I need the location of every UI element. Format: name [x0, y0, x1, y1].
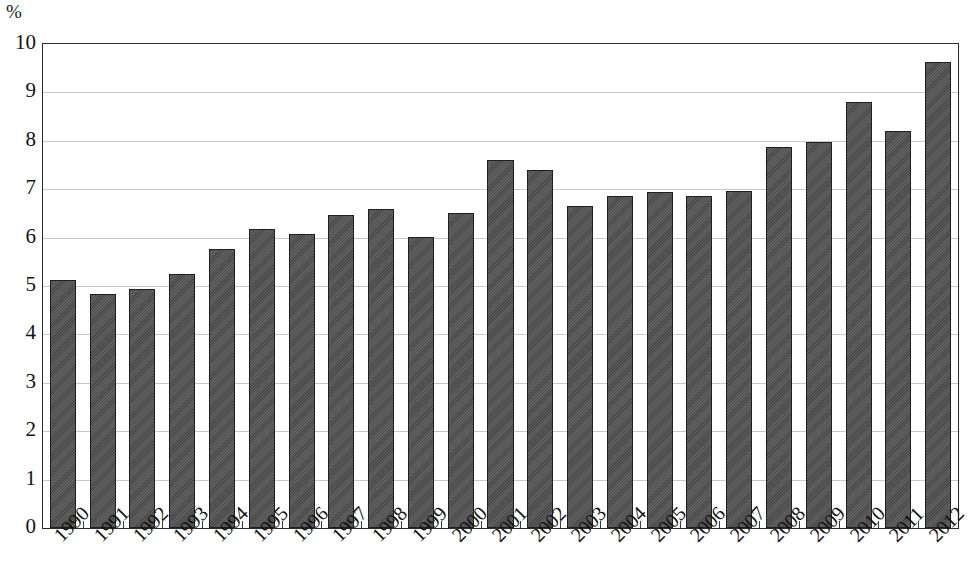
plot-area	[42, 43, 959, 529]
y-axis: 109876543210	[0, 43, 36, 529]
y-axis-tick-label: 3	[2, 371, 36, 392]
bar	[607, 196, 633, 528]
y-axis-tick-label: 7	[2, 177, 36, 198]
bar	[90, 294, 116, 528]
bar	[408, 237, 434, 528]
bar	[567, 206, 593, 528]
y-axis-tick-label: 9	[2, 80, 36, 101]
y-axis-tick-label: 0	[2, 516, 36, 537]
y-axis-unit-label: %	[6, 2, 22, 22]
y-axis-tick-label: 1	[2, 468, 36, 489]
bar	[846, 102, 872, 528]
bar	[487, 160, 513, 528]
bar	[169, 274, 195, 528]
bar	[686, 196, 712, 528]
y-axis-tick-label: 5	[2, 274, 36, 295]
bar	[527, 170, 553, 528]
bar	[328, 215, 354, 528]
y-axis-tick-label: 6	[2, 226, 36, 247]
bars-group	[43, 44, 958, 528]
y-axis-tick-label: 2	[2, 419, 36, 440]
bar	[249, 229, 275, 528]
y-axis-tick-label: 10	[2, 32, 36, 53]
bar	[50, 280, 76, 528]
bar	[925, 62, 951, 528]
bar	[209, 249, 235, 528]
y-axis-tick-label: 4	[2, 322, 36, 343]
bar	[726, 191, 752, 528]
bar	[289, 234, 315, 528]
y-axis-tick-label: 8	[2, 129, 36, 150]
bar	[129, 289, 155, 528]
bar	[368, 209, 394, 528]
bar	[885, 131, 911, 528]
bar	[647, 192, 673, 528]
bar	[806, 142, 832, 528]
bar	[766, 147, 792, 528]
x-axis: 1990199119921993199419951996199719981999…	[42, 531, 959, 573]
bar	[448, 213, 474, 528]
